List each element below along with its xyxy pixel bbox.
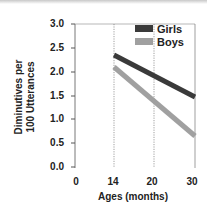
y-tick-label: 2.5 [50,42,64,53]
y-ticks [71,24,75,167]
y-tick-label: 0.0 [50,161,64,172]
x-tick-label: 0 [73,176,79,187]
y-axis-label: Diminutives per 100 Utterances [13,59,36,134]
legend-swatch-girls [135,25,153,32]
svg-text:100 Utterances: 100 Utterances [25,61,36,133]
x-tick-label: 30 [186,176,198,187]
line-chart: 3.0 2.5 2.0 1.5 1.0 0.5 0.0 0 14 20 30 A… [0,0,207,210]
legend: Girls Boys [135,23,184,48]
legend-swatch-boys [135,38,153,45]
legend-label-girls: Girls [157,23,182,35]
x-tick-label: 14 [107,176,119,187]
y-tick-label: 3.0 [50,18,64,29]
x-tick-label: 20 [146,176,158,187]
y-tick-label: 1.5 [50,90,64,101]
y-tick-label: 1.0 [50,113,64,124]
y-tick-label: 2.0 [50,66,64,77]
x-axis-label: Ages (months) [98,191,168,202]
y-tick-label: 0.5 [50,137,64,148]
legend-label-boys: Boys [157,36,184,48]
svg-text:Diminutives per: Diminutives per [13,59,24,134]
